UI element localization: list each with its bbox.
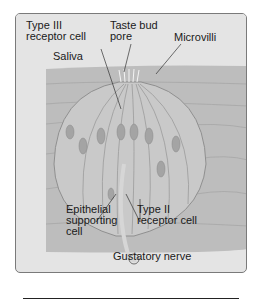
label-epithelial-supporting-cell: Epithelial supporting cell bbox=[66, 204, 117, 237]
label-microvilli: Microvilli bbox=[174, 32, 216, 43]
label-type2-receptor-cell: Type II receptor cell bbox=[137, 204, 197, 226]
taste-bud-illustration bbox=[16, 14, 247, 273]
divider-rule bbox=[23, 298, 239, 299]
label-gustatory-nerve: Gustatory nerve bbox=[113, 251, 191, 262]
label-taste-bud-pore: Taste bud pore bbox=[110, 20, 158, 42]
label-type3-receptor-cell: Type III receptor cell bbox=[26, 20, 86, 42]
label-saliva: Saliva bbox=[53, 51, 83, 62]
diagram-panel: Type III receptor cell Taste bud pore Mi… bbox=[15, 13, 247, 273]
